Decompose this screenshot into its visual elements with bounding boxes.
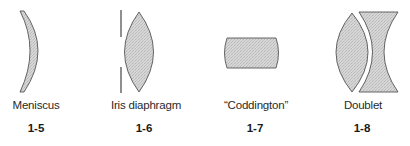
iris-diaphragm-icon (121, 10, 154, 93)
figure-number-1-5: 1-5 (28, 122, 45, 134)
caption-meniscus: Meniscus (13, 99, 60, 111)
figure-number-1-7: 1-7 (247, 122, 264, 134)
coddington-lens-icon (225, 38, 279, 68)
caption-doublet: Doublet (344, 99, 382, 111)
meniscus-lens-icon (20, 11, 38, 92)
figure-number-1-8: 1-8 (354, 122, 371, 134)
lens-diagram (0, 0, 410, 146)
doublet-lens-icon (336, 12, 398, 92)
doublet-convex-element (336, 13, 368, 92)
figure-number-1-6: 1-6 (136, 122, 153, 134)
caption-iris-diaphragm: Iris diaphragm (111, 99, 181, 111)
caption-coddington: “Coddington” (224, 99, 288, 111)
biconvex-lens-icon (125, 12, 154, 92)
